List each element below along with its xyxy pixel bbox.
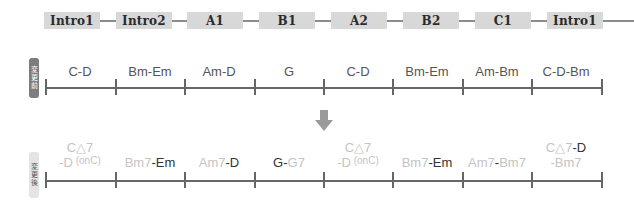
chord-line: -D (onC) <box>45 155 115 171</box>
bar-tick <box>462 172 464 188</box>
chord-after: C△7-D-Bm7 <box>531 140 601 170</box>
chord-changed: -Bm7 <box>550 155 581 170</box>
chord-changed: (onC) <box>73 155 101 166</box>
chord-line: -D (onC) <box>323 155 393 171</box>
bar-tick <box>115 172 117 188</box>
chord-changed: C△7 <box>345 140 372 155</box>
chord-before: Bm-Em <box>115 64 185 79</box>
bar-tick <box>531 172 533 188</box>
chord-line: Am7-Bm7 <box>462 155 532 170</box>
chord-before: Bm-Em <box>392 64 462 79</box>
chord-before: C-D <box>45 64 115 79</box>
bar-tick <box>45 172 47 188</box>
chord-changed: Bm7 <box>402 155 429 170</box>
bar-tick <box>254 172 256 188</box>
chord-after: G-G7 <box>254 155 324 170</box>
label-char: 後 <box>31 179 38 187</box>
chord-line: Bm7-Em <box>392 155 462 170</box>
chord-line: C△7 <box>45 140 115 155</box>
bar-tick <box>392 79 394 95</box>
bar-tick <box>254 79 256 95</box>
label-char: 変 <box>31 163 38 171</box>
label-char: 前 <box>31 82 38 90</box>
section-box: B2 <box>403 12 459 29</box>
chord-after: Bm7-Em <box>392 155 462 170</box>
chord-before: Am-D <box>184 64 254 79</box>
section-box: A1 <box>187 12 243 29</box>
chord-changed: Am7 <box>199 155 226 170</box>
down-arrow-icon <box>315 110 333 132</box>
chord-changed: (onC) <box>351 155 379 166</box>
bar-tick <box>323 79 325 95</box>
chord-after: Am7-D <box>184 155 254 170</box>
bar-tick <box>462 79 464 95</box>
chord-changed: Bm7 <box>125 155 152 170</box>
chord-line: Am7-D <box>184 155 254 170</box>
chord-line: G-G7 <box>254 155 324 170</box>
chord-before: C-D <box>323 64 393 79</box>
chord-before: G <box>254 64 324 79</box>
chord-kept: G <box>273 155 283 170</box>
bar-tick <box>45 79 47 95</box>
bar-tick <box>184 172 186 188</box>
bar-tick <box>531 79 533 95</box>
label-char: 更 <box>31 171 38 179</box>
chord-after: C△7-D (onC) <box>323 140 393 171</box>
section-box: A2 <box>331 12 387 29</box>
chord-after: Am7-Bm7 <box>462 155 532 170</box>
chord-before: Am-Bm <box>462 64 532 79</box>
chord-kept: -Em <box>428 155 452 170</box>
chord-kept: -Em <box>151 155 175 170</box>
section-timeline: Intro1Intro2A1B1A2B2C1Intro1 <box>0 0 634 40</box>
after-change-label: 変更後 <box>29 152 39 198</box>
chord-changed: Bm7 <box>499 155 526 170</box>
bar-tick <box>601 79 603 95</box>
chord-kept: -D <box>572 140 586 155</box>
chord-after: Bm7-Em <box>115 155 185 170</box>
chord-kept: -D <box>226 155 240 170</box>
chord-changed: -D <box>59 155 73 170</box>
chord-line: -Bm7 <box>531 155 601 170</box>
section-box: Intro1 <box>547 12 603 29</box>
bar-tick <box>184 79 186 95</box>
label-char: 更 <box>31 74 38 82</box>
chord-line: Bm7-Em <box>115 155 185 170</box>
section-box: Intro2 <box>116 12 172 29</box>
chord-changed: C△7 <box>546 140 573 155</box>
section-box: C1 <box>475 12 531 29</box>
bar-tick <box>601 172 603 188</box>
chord-changed: Am7 <box>468 155 495 170</box>
bar-tick <box>323 172 325 188</box>
chord-after: C△7-D (onC) <box>45 140 115 171</box>
bar-tick <box>115 79 117 95</box>
chord-line: C△7 <box>323 140 393 155</box>
label-char: 変 <box>31 66 38 74</box>
chord-before: C-D-Bm <box>531 64 601 79</box>
before-change-label: 変更前 <box>29 58 39 98</box>
chord-changed: -D <box>337 155 351 170</box>
chord-line: C△7-D <box>531 140 601 155</box>
chord-changed: G7 <box>288 155 305 170</box>
bar-tick <box>392 172 394 188</box>
section-box: B1 <box>259 12 315 29</box>
chord-changed: C△7 <box>67 140 94 155</box>
section-box: Intro1 <box>44 12 100 29</box>
